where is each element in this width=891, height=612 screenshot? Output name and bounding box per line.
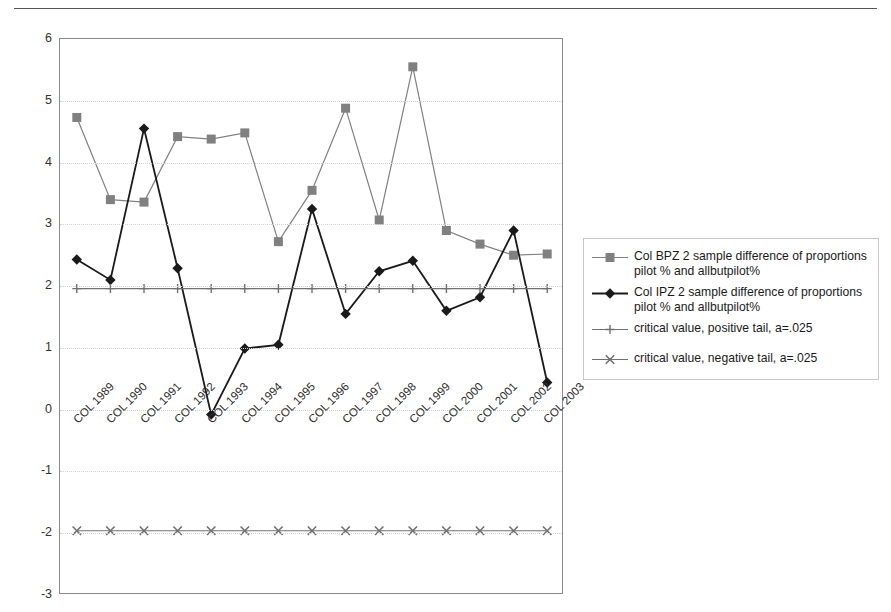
y-tick-label: 0 — [16, 402, 52, 416]
data-point-square — [240, 128, 249, 137]
data-point-square — [606, 253, 615, 262]
legend-marker-diamond-icon — [590, 286, 630, 301]
legend-label: critical value, negative tail, a=.025 — [634, 351, 817, 366]
data-point-square — [442, 226, 451, 235]
data-point-square — [408, 62, 417, 71]
gridline — [60, 163, 562, 164]
legend-label: Col IPZ 2 sample difference of proportio… — [634, 285, 862, 314]
data-point-square — [341, 104, 350, 113]
data-point-diamond — [508, 225, 518, 235]
gridline — [60, 533, 562, 534]
y-tick-label: -3 — [16, 587, 52, 601]
data-point-diamond — [475, 292, 485, 302]
legend-marker-square-icon — [590, 250, 630, 265]
series-square — [72, 62, 551, 259]
data-point-square — [476, 240, 485, 249]
legend-item: Col IPZ 2 sample difference of proportio… — [590, 285, 870, 314]
data-point-square — [106, 195, 115, 204]
chart-figure: 6543210-1-2-3 COL 1989COL 1990COL 1991CO… — [0, 0, 891, 612]
data-point-square — [207, 135, 216, 144]
y-tick-label: 3 — [16, 216, 52, 230]
gridline — [60, 286, 562, 287]
data-point-diamond — [307, 204, 317, 214]
data-point-square — [375, 216, 384, 225]
legend-label: critical value, positive tail, a=.025 — [634, 321, 813, 336]
legend-item: Col BPZ 2 sample difference of proportio… — [590, 249, 870, 278]
y-axis: 6543210-1-2-3 — [10, 38, 52, 594]
gridline — [60, 348, 562, 349]
data-point-diamond — [408, 256, 418, 266]
legend-marker-cross-icon — [590, 352, 630, 367]
data-point-diamond — [441, 306, 451, 316]
legend-item: critical value, negative tail, a=.025 — [590, 351, 870, 367]
data-point-square — [308, 186, 317, 195]
gridline — [60, 224, 562, 225]
data-point-square — [543, 249, 552, 258]
y-tick-label: 4 — [16, 155, 52, 169]
data-point-diamond — [605, 288, 615, 298]
data-point-diamond — [72, 254, 82, 264]
y-tick-label: -2 — [16, 525, 52, 539]
y-tick-label: 2 — [16, 278, 52, 292]
legend-marker-plus-icon — [590, 322, 630, 337]
series-line — [77, 67, 547, 255]
gridline — [60, 471, 562, 472]
y-tick-label: 6 — [16, 31, 52, 45]
data-point-diamond — [105, 275, 115, 285]
series-layer — [60, 39, 564, 595]
data-point-square — [274, 237, 283, 246]
chart-legend: Col BPZ 2 sample difference of proportio… — [583, 238, 879, 380]
data-point-square — [72, 113, 81, 122]
series-line — [77, 129, 547, 415]
series-diamond — [72, 123, 553, 419]
y-tick-label: 1 — [16, 340, 52, 354]
y-tick-label: -1 — [16, 463, 52, 477]
gridline — [60, 101, 562, 102]
data-point-plus — [606, 325, 615, 334]
data-point-square — [173, 132, 182, 141]
data-point-square — [140, 198, 149, 207]
legend-label: Col BPZ 2 sample difference of proportio… — [634, 249, 867, 278]
data-point-square — [509, 251, 518, 260]
plot-area — [59, 38, 563, 594]
data-point-diamond — [139, 123, 149, 133]
y-tick-label: 5 — [16, 93, 52, 107]
data-point-diamond — [172, 263, 182, 273]
legend-item: critical value, positive tail, a=.025 — [590, 321, 870, 337]
